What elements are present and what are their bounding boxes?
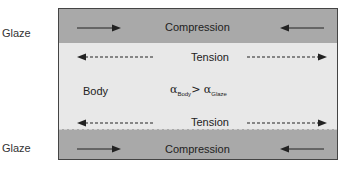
- glaze-bottom-label: Glaze: [2, 142, 31, 154]
- tension-arrow-left-icon: [77, 118, 155, 128]
- alpha-body-subscript: Body: [177, 91, 191, 97]
- greater-than-operator: >: [191, 83, 200, 96]
- tension-top-label: Tension: [191, 51, 229, 63]
- expansion-coefficient-formula: αBody> αGlaze: [170, 83, 227, 97]
- alpha-glaze-subscript: Glaze: [211, 91, 227, 97]
- compression-arrow-right-icon: [77, 144, 121, 154]
- glaze-top-label: Glaze: [2, 27, 31, 39]
- compression-top-label: Compression: [165, 21, 230, 33]
- tension-arrow-left-icon: [77, 52, 155, 62]
- tension-bottom-label: Tension: [191, 116, 229, 128]
- tension-arrow-right-icon: [247, 118, 327, 128]
- body-label: Body: [83, 85, 108, 97]
- compression-bottom-label: Compression: [165, 143, 230, 155]
- compression-arrow-left-icon: [280, 144, 324, 154]
- compression-arrow-left-icon: [280, 23, 324, 33]
- stress-diagram: Compression Tension Body αBody> αGlaze T…: [58, 8, 338, 160]
- tension-arrow-right-icon: [247, 52, 327, 62]
- compression-arrow-right-icon: [77, 23, 121, 33]
